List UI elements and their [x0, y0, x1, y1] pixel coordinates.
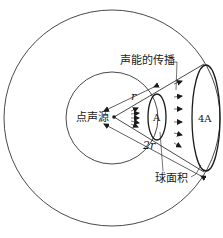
- cone-upper-line: [114, 64, 204, 117]
- distance-r-label: r: [131, 90, 137, 103]
- area-a-label: A: [152, 112, 161, 123]
- distance-2r-label: 2r: [142, 139, 156, 152]
- sphere-area-label: 球面积: [155, 171, 188, 185]
- area-4a-label: 4A: [198, 113, 212, 124]
- inner-propagation-arrows: [131, 108, 139, 127]
- outer-propagation-arrows: [174, 81, 182, 147]
- cone-lower-line: [114, 117, 204, 172]
- point-source-label: 点声源: [76, 110, 109, 124]
- propagation-label: 声能的传播: [120, 53, 175, 67]
- sound-spreading-diagram: 点声源 声能的传播 球面积 r 2r A 4A: [0, 0, 223, 238]
- outer-sphere: [4, 10, 220, 226]
- distance-r-arrow: [104, 87, 154, 111]
